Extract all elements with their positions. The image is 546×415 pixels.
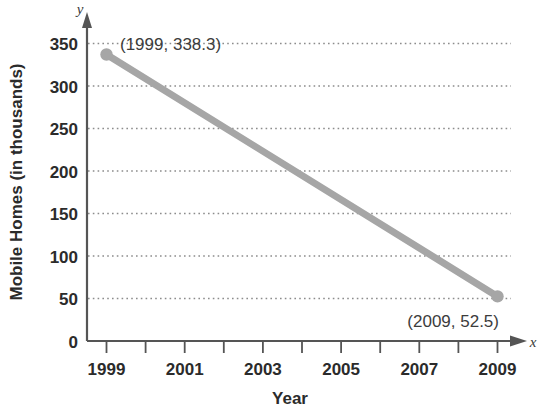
x-axis bbox=[87, 336, 527, 347]
x-axis-arrowhead bbox=[510, 336, 527, 347]
x-axis-tick-labels: 1999 2001 2003 2005 2007 2009 bbox=[88, 360, 517, 379]
y-tick-label-350: 350 bbox=[50, 35, 78, 54]
data-point-marker-1999 bbox=[100, 48, 112, 60]
x-tick-label-2003: 2003 bbox=[244, 360, 282, 379]
data-series-mobile-homes bbox=[100, 48, 503, 302]
x-axis-ticks bbox=[107, 341, 498, 353]
annotation-point-1999: (1999, 338.3) bbox=[120, 35, 221, 54]
y-tick-label-250: 250 bbox=[50, 120, 78, 139]
x-tick-label-2009: 2009 bbox=[479, 360, 517, 379]
y-axis-variable-label: y bbox=[75, 1, 84, 17]
y-tick-label-200: 200 bbox=[50, 163, 78, 182]
y-axis-title: Mobile Homes (in thousands) bbox=[7, 63, 26, 300]
x-tick-label-2005: 2005 bbox=[322, 360, 360, 379]
x-axis-variable-label: x bbox=[529, 334, 537, 350]
y-tick-label-150: 150 bbox=[50, 205, 78, 224]
data-point-marker-2009 bbox=[491, 290, 503, 302]
chart-figure: 350 300 250 200 150 100 50 0 1999 2001 2… bbox=[0, 0, 546, 415]
y-tick-label-0: 0 bbox=[69, 333, 78, 352]
y-tick-label-300: 300 bbox=[50, 78, 78, 97]
y-tick-label-50: 50 bbox=[59, 290, 78, 309]
series-line bbox=[107, 55, 498, 297]
y-axis-tick-labels: 350 300 250 200 150 100 50 0 bbox=[50, 35, 78, 352]
y-tick-label-100: 100 bbox=[50, 248, 78, 267]
y-axis bbox=[82, 12, 92, 341]
annotation-point-2009: (2009, 52.5) bbox=[407, 312, 499, 331]
x-tick-label-1999: 1999 bbox=[88, 360, 126, 379]
y-axis-arrowhead bbox=[82, 12, 92, 28]
line-chart-canvas: 350 300 250 200 150 100 50 0 1999 2001 2… bbox=[0, 0, 546, 415]
x-tick-label-2001: 2001 bbox=[166, 360, 204, 379]
x-tick-label-2007: 2007 bbox=[400, 360, 438, 379]
x-axis-title: Year bbox=[272, 389, 308, 408]
